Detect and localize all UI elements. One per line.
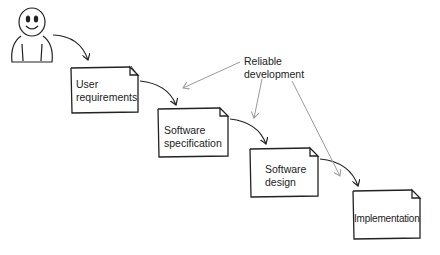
step-label-line: specification (164, 137, 222, 150)
arrow-design-to-implementation (320, 159, 358, 186)
arrow-actor-to-user-requirements (53, 35, 88, 60)
annotation-line-2: development (244, 68, 304, 81)
annotation-line-1: Reliable (244, 55, 304, 68)
smiley-person-icon (12, 8, 53, 62)
step-label-line: Software (164, 124, 222, 137)
step-label-line: design (265, 176, 306, 189)
step-label-line: User (76, 78, 137, 91)
flow-arrows (53, 35, 358, 186)
step-label-line: Implementation (354, 212, 420, 225)
arrow-reliable-to-implementation (292, 81, 340, 176)
step-label-implementation: Implementation (354, 212, 420, 225)
step-label-software-design: Software design (265, 163, 306, 189)
step-label-line: Software (265, 163, 306, 176)
arrow-specification-to-design (230, 119, 266, 144)
arrow-reliable-to-design (254, 79, 262, 118)
annotation-reliable-development: Reliable development (244, 55, 304, 81)
step-label-user-requirements: User requirements (76, 78, 137, 104)
step-label-software-specification: Software specification (164, 124, 222, 150)
arrow-reliable-to-specification (183, 62, 240, 88)
arrow-user-requirements-to-specification (140, 81, 176, 105)
step-label-line: requirements (76, 91, 137, 104)
